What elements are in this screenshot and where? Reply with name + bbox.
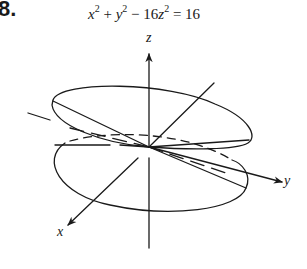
diagonal-line-down bbox=[149, 147, 246, 188]
hidden-line-1 bbox=[28, 113, 50, 120]
hyperboloid-diagram bbox=[0, 0, 307, 269]
hidden-line-2 bbox=[70, 128, 149, 147]
upper-ellipse bbox=[52, 86, 252, 149]
trace-line-upper-right bbox=[149, 140, 249, 147]
x-axis bbox=[68, 158, 138, 225]
y-axis bbox=[149, 147, 282, 182]
